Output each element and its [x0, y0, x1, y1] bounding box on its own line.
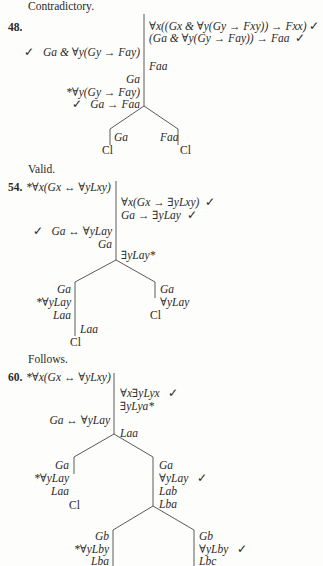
p54-bl-2: *∀yLay	[36, 296, 71, 309]
p60-laa: Laa	[120, 427, 138, 440]
p48-closed-right: Cl	[180, 144, 191, 157]
p60-br-4: Lba	[159, 498, 177, 511]
p60-br-1: Ga	[159, 459, 173, 472]
p60-premise: *∀x(Gx ↔ ∀yLxy)	[26, 371, 111, 384]
result-valid: Valid.	[28, 163, 55, 176]
p54-right-2: Ga → ∃yLay ✓	[121, 209, 197, 222]
p54-left-2: Ga	[98, 238, 112, 251]
p60-sr-3: Lbc	[199, 555, 216, 566]
p60-bl-2: *∀yLay	[34, 472, 69, 485]
p54-br-2: ∀yLay	[160, 296, 189, 309]
p48-left-cond: ✓ Ga → Faa	[72, 98, 140, 111]
p60-left: Ga ↔ ∀yLay	[49, 414, 110, 427]
p54-closed-left: Cl	[70, 336, 81, 349]
p60-closed-left: Cl	[69, 499, 80, 512]
p60-sl-1: Gb	[95, 530, 109, 543]
p48-branch-right: Faa	[160, 131, 179, 144]
p48-faa: Faa	[149, 60, 168, 73]
result-follows: Follows.	[28, 353, 68, 366]
p60-right-2: ∃yLya*	[120, 400, 154, 413]
p60-br-3: Lab	[159, 485, 177, 498]
p60-br-2: ∀yLay ✓	[159, 472, 207, 485]
problem-number-54: 54.	[8, 181, 22, 194]
p48-branch-left: Ga	[114, 131, 128, 144]
p60-sl-3: Lba	[91, 555, 109, 566]
result-contradictory: Contradictory.	[28, 0, 94, 13]
p60-sr-1: Gb	[199, 530, 213, 543]
p60-bl-3: Laa	[51, 485, 69, 498]
p54-br-1: Ga	[160, 283, 174, 296]
p54-bl-sub: Laa	[80, 323, 98, 336]
p54-bl-1: Ga	[57, 283, 71, 296]
p54-right-1: ∀x(Gx → ∃yLxy) ✓	[121, 196, 215, 209]
p48-closed-left: Cl	[102, 144, 113, 157]
problem-number-60: 60.	[8, 371, 22, 384]
p54-closed-right: Cl	[150, 309, 161, 322]
p60-bl-1: Ga	[55, 459, 69, 472]
p54-premise: *∀x(Gx ↔ ∀yLxy)	[26, 181, 111, 194]
p60-right-1: ∀x∃yLyx ✓	[120, 387, 178, 400]
p48-left-1: ✓ Ga & ∀y(Gy → Fay)	[24, 46, 140, 59]
problem-number-48: 48.	[8, 21, 22, 34]
p48-left-ga: Ga	[126, 73, 140, 86]
p54-exists: ∃yLay*	[121, 249, 155, 262]
p54-left-1: ✓ Ga ↔ ∀yLay	[33, 225, 112, 238]
p54-bl-3: Laa	[53, 309, 71, 322]
p48-line-2: (Ga & ∀y(Gy → Fay)) → Faa ✓	[149, 32, 305, 45]
